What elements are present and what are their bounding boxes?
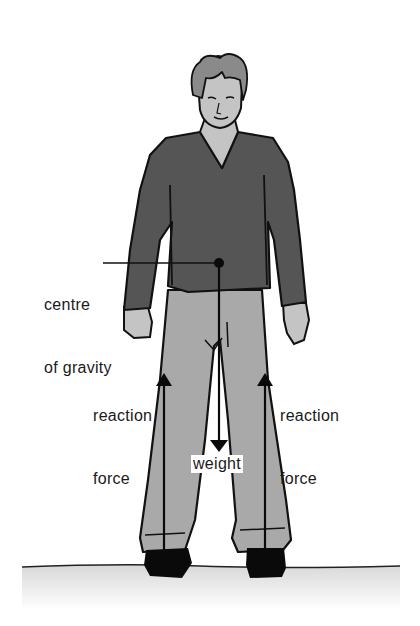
shirt <box>124 132 306 310</box>
weight-label: weight <box>191 455 243 473</box>
reaction-force-left-line2: force <box>93 468 152 489</box>
reaction-force-label-left: reaction force <box>93 363 152 510</box>
centre-of-gravity-label-line1: centre <box>44 294 112 315</box>
ground <box>22 565 400 610</box>
reaction-force-label-right: reaction force <box>280 363 339 510</box>
reaction-force-left-line1: reaction <box>93 405 152 426</box>
head <box>192 54 248 128</box>
reaction-force-right-line1: reaction <box>280 405 339 426</box>
trousers <box>140 290 291 552</box>
reaction-force-right-line2: force <box>280 468 339 489</box>
